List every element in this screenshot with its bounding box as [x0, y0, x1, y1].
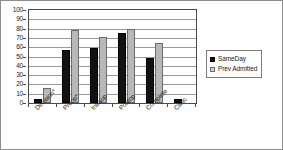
- y-tick-mark: [23, 57, 26, 58]
- y-tick-mark: [23, 84, 26, 85]
- bar-sameday: [90, 48, 98, 103]
- y-tick-mark: [23, 66, 26, 67]
- y-tick-label: 10: [16, 90, 23, 97]
- bar-group: [85, 10, 113, 103]
- bar-chart: 1009080706050403020100 Decision*Preop*In…: [0, 0, 283, 150]
- y-tick-label: 30: [16, 72, 23, 79]
- y-tick-mark: [23, 75, 26, 76]
- y-tick-label: 80: [16, 25, 23, 32]
- y-tick-mark: [23, 94, 26, 95]
- legend-item-sameday: SameDay: [210, 54, 257, 64]
- legend-label-prev-admitted: Prev Admitted: [218, 66, 257, 73]
- bar-group: [57, 10, 85, 103]
- y-tick-label: 20: [16, 81, 23, 88]
- y-tick-mark: [23, 19, 26, 20]
- bar-sameday: [118, 33, 126, 103]
- legend-label-sameday: SameDay: [218, 56, 246, 63]
- y-tick-label: 60: [16, 44, 23, 51]
- y-tick-mark: [23, 29, 26, 30]
- bar-group: [168, 10, 196, 103]
- chart-legend: SameDay Prev Admitted: [206, 50, 262, 78]
- y-tick-mark: [23, 10, 26, 11]
- bar-group: [113, 10, 141, 103]
- y-axis: 1009080706050403020100: [1, 9, 26, 104]
- x-axis-labels: Decision*Preop*IntraopPostopCompleteClin…: [1, 107, 221, 150]
- y-tick-label: 40: [16, 63, 23, 70]
- y-tick-label: 100: [13, 7, 23, 14]
- legend-item-prev-admitted: Prev Admitted: [210, 64, 257, 74]
- y-tick-mark: [23, 47, 26, 48]
- y-tick-label: 50: [16, 53, 23, 60]
- legend-swatch-prev-admitted-icon: [210, 67, 215, 72]
- y-tick-label: 70: [16, 35, 23, 42]
- bar-sameday: [62, 50, 70, 103]
- y-tick-mark: [23, 38, 26, 39]
- legend-swatch-sameday-icon: [210, 57, 215, 62]
- y-tick-mark: [23, 103, 26, 104]
- y-tick-label: 90: [16, 16, 23, 23]
